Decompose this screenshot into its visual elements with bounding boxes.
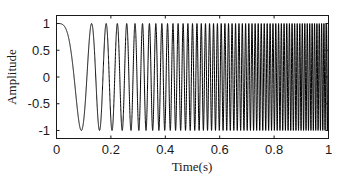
x-tick-label: 0.4 (156, 142, 174, 157)
x-tick-label: 0 (53, 142, 60, 157)
y-tick-label: -0.5 (28, 96, 50, 111)
chirp-figure: 00.20.40.60.81 10.50-0.5-1 Time(s) Ampli… (0, 0, 344, 184)
chart-canvas: 00.20.40.60.81 10.50-0.5-1 Time(s) Ampli… (0, 0, 344, 184)
x-tick-label: 0.6 (211, 142, 229, 157)
y-tick-label: 0.5 (32, 43, 50, 58)
y-tick-label: -1 (38, 123, 50, 138)
y-tick-label: 1 (43, 16, 50, 31)
y-tick-label: 0 (43, 70, 50, 85)
x-tick-label: 1 (325, 142, 332, 157)
x-tick-label: 0.2 (102, 142, 120, 157)
chirp-polyline (57, 24, 329, 131)
x-axis-label: Time(s) (172, 159, 213, 174)
x-tick-label: 0.8 (265, 142, 283, 157)
y-axis-label: Amplitude (4, 49, 19, 105)
chirp-line (57, 24, 329, 131)
